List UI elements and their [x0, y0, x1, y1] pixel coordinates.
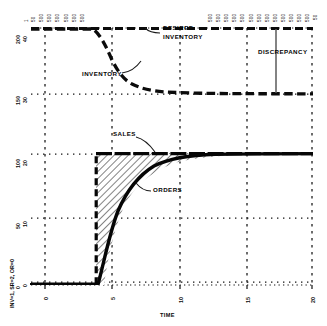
top-scale-mark: 500 — [281, 14, 286, 22]
annotation-desired-inventory-line1: DESIRED — [163, 24, 194, 31]
annotation-orders: ORDERS — [153, 186, 182, 193]
x-tick-0: 0 — [43, 297, 49, 300]
y-tick-primary-0: 0 — [15, 286, 21, 289]
annotation-desired-inventory-line2: INVENTORY — [163, 33, 203, 40]
top-scale-mark: 500 — [249, 14, 254, 22]
y-tick-primary-50: 50 — [15, 223, 21, 229]
annotation-discrepancy: DISCREPANCY — [258, 48, 308, 55]
top-scale-mark: 500 — [80, 14, 85, 22]
x-axis-ticks — [45, 285, 312, 289]
series-orders — [31, 154, 313, 285]
top-scale-mark: 500 — [224, 14, 229, 22]
top-scale-mark: 500 — [208, 14, 213, 22]
y-tick-secondary-30: 30 — [22, 97, 28, 103]
top-scale-mark: 500 — [305, 14, 310, 22]
top-scale-mark: 500 — [39, 14, 44, 22]
top-scale-corner-1: 1 — [24, 19, 29, 22]
y-tick-secondary-20: 20 — [22, 160, 28, 166]
x-tick-5: 5 — [110, 297, 116, 300]
x-axis-label: TIME — [160, 312, 175, 318]
leader-sales — [136, 137, 155, 152]
annotation-sales: SALES — [113, 130, 136, 137]
top-scale-mark: 500 — [47, 14, 52, 22]
top-scale-mark: 500 — [72, 14, 77, 22]
top-scale-corner-2: 50 — [31, 16, 36, 22]
y-tick-secondary-10: 10 — [22, 221, 28, 227]
y-axis-caption: INV=1, SR=2, OR=0 — [9, 259, 15, 308]
y-tick-secondary-0: 0 — [22, 284, 28, 287]
x-tick-10: 10 — [178, 297, 184, 303]
chart-figure: 1 50 500 500 500 500 500 500 500 500 500… — [0, 0, 327, 326]
top-scale-mark: 500 — [265, 14, 270, 22]
leader-inventory — [122, 61, 141, 73]
top-scale-mark: 500 — [240, 14, 245, 22]
annotation-inventory: INVENTORY — [82, 70, 122, 77]
x-tick-15: 15 — [245, 297, 251, 303]
top-scale-mark: 50 — [313, 14, 318, 20]
top-scale-mark: 500 — [273, 14, 278, 22]
y-tick-secondary-40: 40 — [22, 36, 28, 42]
x-tick-20: 20 — [310, 297, 316, 303]
top-scale-mark: 500 — [232, 14, 237, 22]
y-tick-primary-200: 200 — [15, 35, 21, 44]
top-scale-mark: 500 — [289, 14, 294, 22]
y-tick-primary-150: 150 — [15, 96, 21, 105]
y-tick-primary-100: 100 — [15, 159, 21, 168]
top-scale-mark: 500 — [297, 14, 302, 22]
top-scale-mark: 500 — [257, 14, 262, 22]
top-scale-mark: 500 — [55, 14, 60, 22]
top-scale-mark: 500 — [216, 14, 221, 22]
order-backlog-gap-area — [96, 154, 250, 285]
top-scale-mark: 500 — [64, 14, 69, 22]
